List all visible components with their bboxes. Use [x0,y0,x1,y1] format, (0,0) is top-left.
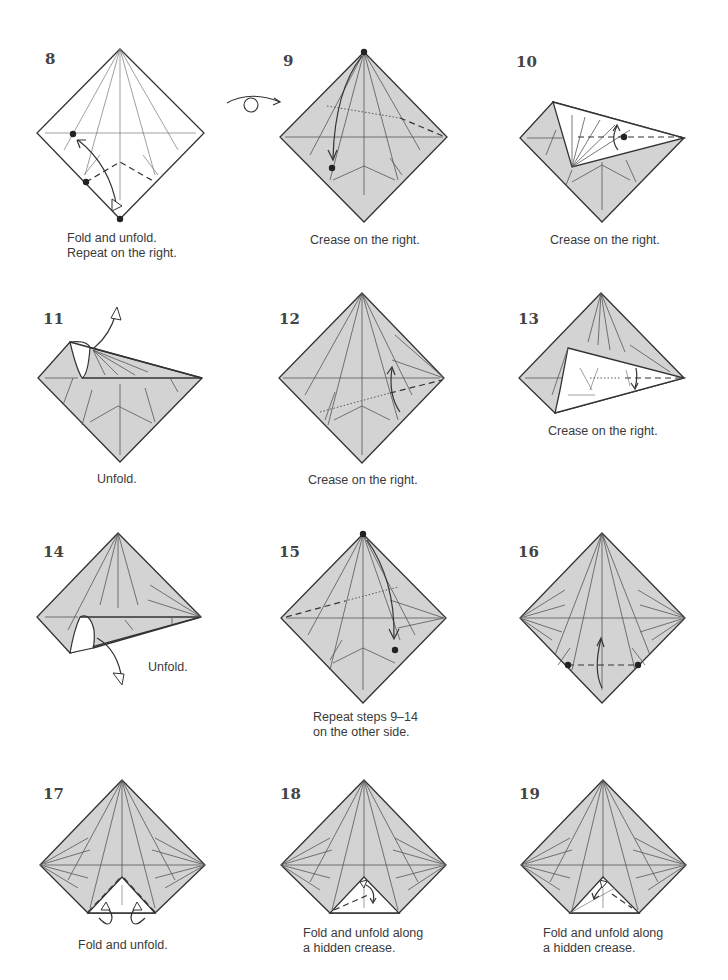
step-caption: Crease on the right. [550,233,660,248]
step-16-diagram [490,520,728,760]
step-12: 12 Crease on the right. [250,280,490,510]
step-caption: Repeat steps 9–14 on the other side. [313,710,418,740]
step-19: 19 Fold and unfold along a hidden crease… [490,760,728,980]
step-10-diagram [490,0,728,270]
step-9-diagram [240,0,480,270]
step-caption: Unfold. [97,472,137,487]
step-caption: Fold and unfold along a hidden crease. [543,926,663,956]
step-caption: Crease on the right. [310,233,420,248]
step-9: 9 Crease on the right. [240,0,480,270]
step-caption: Fold and unfold. Repeat on the right. [67,231,177,261]
step-17: 17 Fold and unfold. [0,760,240,980]
step-8: 8 Fold and unfold. Repeat on the right. [0,0,240,270]
step-15: 15 Repeat steps 9–14 on the other side. [250,520,490,760]
step-11: 11 Unfold. [0,280,240,510]
step-8-diagram [0,0,240,270]
step-caption: Fold and unfold along a hidden crease. [303,926,423,956]
step-caption: Crease on the right. [548,424,658,439]
step-16: 16 [490,520,728,760]
step-18: 18 Fold and unfold along a hidden crease… [250,760,490,980]
step-13-diagram [490,280,728,510]
step-14: 14 Unfold. [0,520,240,750]
step-10: 10 Crease on the right. [490,0,728,270]
step-caption: Unfold. [148,660,188,675]
step-13: 13 Crease on the right. [490,280,728,510]
step-caption: Crease on the right. [308,473,418,488]
step-caption: Fold and unfold. [78,938,168,953]
step-14-diagram [0,520,240,750]
